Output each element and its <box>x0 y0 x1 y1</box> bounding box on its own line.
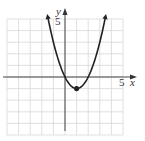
vertex-point <box>74 86 79 91</box>
x-tick-label: 5 <box>119 76 125 88</box>
x-axis-label: x <box>129 76 135 88</box>
parabola-graph: y 5 5 x <box>0 0 145 141</box>
axes <box>3 8 137 131</box>
y-axis-arrow-icon <box>63 8 68 15</box>
y-tick-label: 5 <box>55 15 61 27</box>
